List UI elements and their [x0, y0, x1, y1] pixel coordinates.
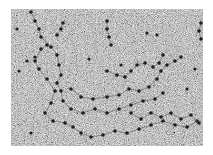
bead [159, 69, 163, 73]
bead [155, 77, 159, 81]
bead [189, 113, 193, 117]
bead [153, 97, 157, 101]
bead [151, 65, 155, 69]
bead [193, 67, 196, 70]
bead [117, 107, 121, 111]
micrograph-texture [11, 9, 203, 146]
bead [117, 93, 121, 97]
bead [69, 107, 73, 111]
bead [139, 117, 143, 121]
bead [105, 27, 109, 31]
bead [59, 89, 63, 93]
bead [105, 19, 109, 23]
bead [39, 47, 43, 51]
bead [129, 111, 133, 115]
bead [25, 59, 28, 62]
bead [37, 67, 41, 71]
bead [185, 87, 188, 90]
bead [51, 119, 55, 123]
bead [159, 115, 163, 119]
bead [137, 127, 141, 131]
bead [29, 131, 32, 134]
bead [113, 129, 117, 133]
bead [143, 61, 147, 65]
bead [37, 27, 41, 31]
bead [105, 111, 109, 115]
bead [179, 117, 183, 121]
bead [55, 53, 59, 57]
bead [129, 103, 133, 107]
bead [59, 27, 63, 31]
bead [59, 73, 63, 77]
micrograph-image [11, 9, 203, 146]
bead [129, 69, 133, 73]
bead [161, 53, 165, 57]
bead [199, 37, 203, 41]
bead [109, 43, 113, 47]
bead [147, 85, 151, 89]
bead [165, 63, 169, 67]
bead [17, 69, 20, 72]
bead [155, 33, 158, 36]
bead [49, 45, 53, 49]
bead [137, 89, 141, 93]
bead [53, 89, 57, 93]
bead [119, 63, 122, 66]
bead [115, 73, 119, 77]
bead [33, 55, 36, 58]
bead [145, 31, 148, 34]
bead [49, 101, 53, 105]
bead [61, 21, 65, 25]
bead [79, 95, 83, 99]
bead [71, 125, 75, 129]
bead [29, 10, 33, 14]
bead [105, 95, 109, 99]
bead [135, 63, 139, 67]
bead [125, 131, 129, 135]
bead [87, 57, 90, 60]
bead [179, 55, 183, 59]
bead [161, 119, 165, 123]
bead [101, 133, 105, 137]
bead [45, 43, 49, 47]
bead [197, 29, 201, 33]
bead [55, 81, 59, 85]
bead [105, 69, 109, 73]
bead [91, 97, 95, 101]
bead [55, 33, 59, 37]
bead [149, 123, 153, 127]
bead [107, 35, 111, 39]
bead [149, 111, 153, 115]
bead [173, 123, 177, 127]
bead [69, 87, 73, 91]
bead [141, 99, 145, 103]
bead [157, 61, 161, 65]
bead [93, 107, 97, 111]
bead [197, 121, 201, 125]
bead [15, 27, 18, 30]
bead [39, 35, 43, 39]
bead [43, 111, 47, 115]
bead [61, 99, 65, 103]
bead [33, 19, 37, 23]
bead [63, 121, 67, 125]
bead [57, 63, 61, 67]
bead [33, 59, 37, 63]
bead [127, 87, 131, 91]
bead [185, 125, 189, 129]
bead [45, 77, 49, 81]
bead [81, 111, 85, 115]
bead [173, 59, 177, 63]
bead [169, 111, 173, 115]
bead [199, 21, 203, 25]
bead [79, 131, 83, 135]
bead [123, 75, 127, 79]
bead [161, 91, 165, 95]
bead [89, 135, 93, 139]
